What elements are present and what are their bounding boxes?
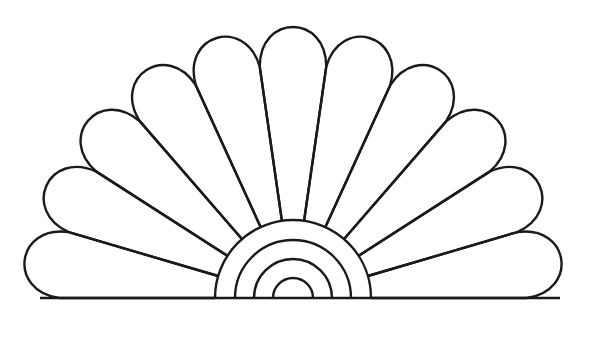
- center-arc: [273, 278, 313, 298]
- fan-petals: [24, 27, 561, 298]
- fan-petal: [24, 232, 218, 298]
- fan-petal: [132, 65, 261, 239]
- fan-petal: [359, 167, 543, 276]
- fan-petal: [325, 65, 454, 239]
- fan-shell-drawing: [0, 0, 596, 338]
- fan-petal: [260, 27, 327, 221]
- fan-petal: [44, 167, 228, 276]
- center-arcs: [215, 220, 371, 298]
- center-arc: [235, 240, 351, 298]
- fan-petal: [368, 232, 562, 298]
